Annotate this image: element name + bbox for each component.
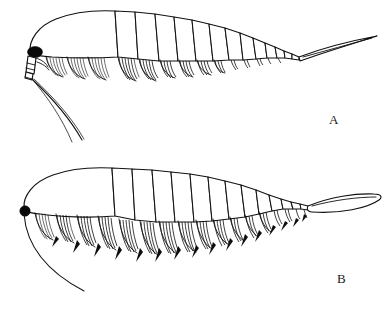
specimen-b-carapace <box>24 168 115 217</box>
specimen-a-telson <box>299 36 377 61</box>
specimen-a-carapace <box>30 11 118 58</box>
figure-canvas: A B <box>0 0 384 313</box>
specimen-a-trunk-segments <box>115 11 299 61</box>
specimen-b-antennae <box>24 214 84 291</box>
specimen-b-telson <box>307 194 381 213</box>
specimen-a-group <box>25 11 377 142</box>
specimen-b-group <box>20 168 381 291</box>
specimen-a-antennae <box>32 79 84 142</box>
specimen-b-head <box>20 206 30 216</box>
panel-label-b: B <box>337 271 346 287</box>
specimen-illustration-svg <box>0 0 384 313</box>
specimen-b-trunk-segments <box>112 168 308 222</box>
panel-label-a: A <box>329 112 339 128</box>
